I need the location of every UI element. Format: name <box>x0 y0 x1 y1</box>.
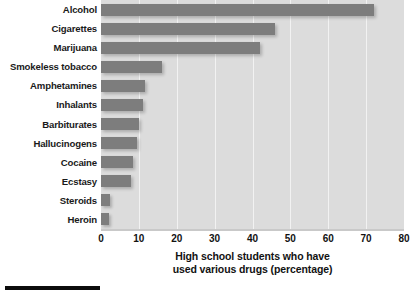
bar <box>101 4 374 16</box>
category-label-cocaine: Cocaine <box>0 157 97 168</box>
category-label-hallucinogens: Hallucinogens <box>0 138 97 149</box>
bar <box>101 99 143 111</box>
bar <box>101 23 275 35</box>
x-axis-line <box>101 229 404 231</box>
x-tick-label-60: 60 <box>313 233 343 244</box>
category-label-steroids: Steroids <box>0 195 97 206</box>
bar <box>101 175 131 187</box>
x-tick-label-50: 50 <box>275 233 305 244</box>
category-label-ecstasy: Ecstasy <box>0 176 97 187</box>
x-tick-label-30: 30 <box>200 233 230 244</box>
bar <box>101 61 162 73</box>
x-axis-title-line-2: used various drugs (percentage) <box>101 263 404 276</box>
bar <box>101 213 109 225</box>
gridline-50 <box>290 0 291 229</box>
category-label-heroin: Heroin <box>0 214 97 225</box>
bar <box>101 137 137 149</box>
bar <box>101 118 139 130</box>
category-label-inhalants: Inhalants <box>0 99 97 110</box>
x-tick-label-40: 40 <box>238 233 268 244</box>
category-label-alcohol: Alcohol <box>0 4 97 15</box>
category-label-barbiturates: Barbiturates <box>0 119 97 130</box>
category-label-cigarettes: Cigarettes <box>0 23 97 34</box>
bar <box>101 42 260 54</box>
category-label-column: AlcoholCigarettesMarijuanaSmokeless toba… <box>0 0 97 229</box>
x-tick-label-70: 70 <box>351 233 381 244</box>
x-axis-title-line-1: High school students who have <box>101 250 404 263</box>
bar <box>101 194 110 206</box>
x-tick-label-0: 0 <box>86 233 116 244</box>
x-axis-title: High school students who have used vario… <box>101 250 404 276</box>
category-label-amphetamines: Amphetamines <box>0 80 97 91</box>
x-axis-tick-labels: 01020304050607080 <box>0 233 413 249</box>
bar <box>101 156 133 168</box>
bottom-rule <box>5 286 100 290</box>
gridline-70 <box>366 0 367 229</box>
x-tick-label-80: 80 <box>389 233 413 244</box>
gridline-60 <box>328 0 329 229</box>
x-tick-label-20: 20 <box>162 233 192 244</box>
x-tick-label-10: 10 <box>124 233 154 244</box>
category-label-marijuana: Marijuana <box>0 42 97 53</box>
bar-chart-figure: AlcoholCigarettesMarijuanaSmokeless toba… <box>0 0 413 298</box>
plot-area <box>101 0 404 229</box>
bar <box>101 80 145 92</box>
category-label-smokeless-tobacco: Smokeless tobacco <box>0 61 97 72</box>
